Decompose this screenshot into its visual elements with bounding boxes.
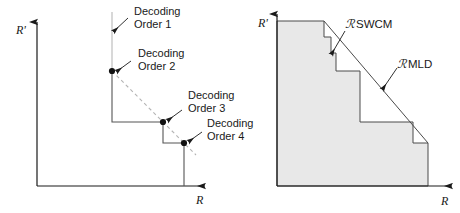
region-label-swcm: ℛ SWCM: [345, 17, 392, 31]
right-leader-mld: [382, 68, 397, 90]
left-y-axis-label: R': [15, 23, 26, 37]
left-x-axis-label: R: [195, 193, 204, 207]
annotation-order2: Decoding Order 2: [138, 47, 184, 72]
left-corner-point-order4: [181, 140, 187, 146]
mld-script-r-icon: ℛ: [397, 57, 408, 71]
figure-container: R' R Decoding Order 1 Decoding: [0, 0, 460, 213]
annotation-order4-line2: Order 4: [207, 130, 244, 142]
annotation-order1: Decoding Order 1: [134, 5, 180, 30]
swcm-script-r-icon: ℛ: [345, 17, 356, 31]
region-label-mld: ℛ MLD: [397, 57, 432, 71]
left-panel-group: R' R Decoding Order 1 Decoding: [15, 5, 253, 207]
annotation-order1-line2: Order 1: [134, 18, 171, 30]
left-leader-order4: [188, 132, 202, 142]
left-corner-point-order2: [109, 68, 115, 74]
left-leader-order2: [116, 61, 131, 72]
annotation-order2-line2: Order 2: [138, 60, 175, 72]
mld-label-text: MLD: [408, 58, 432, 70]
annotation-order3-line1: Decoding: [188, 89, 234, 101]
figure-svg: R' R Decoding Order 1 Decoding: [0, 0, 460, 213]
right-x-axis-label: R: [440, 194, 449, 208]
left-leader-order3: [167, 110, 182, 121]
right-panel-group: R' R ℛ SWCM ℛ MLD: [257, 14, 452, 208]
annotation-order1-line1: Decoding: [134, 5, 180, 17]
left-corner-point-order3: [160, 119, 166, 125]
right-y-axis-label: R': [257, 16, 268, 30]
annotation-order3: Decoding Order 3: [188, 89, 234, 114]
annotation-order4: Decoding Order 4: [207, 117, 253, 142]
right-shaded-region: [277, 21, 428, 186]
left-staircase-boundary: [112, 71, 184, 186]
annotation-order3-line2: Order 3: [188, 102, 225, 114]
swcm-label-text: SWCM: [356, 18, 392, 30]
annotation-order4-line1: Decoding: [207, 117, 253, 129]
left-leader-order1: [113, 18, 128, 32]
annotation-order2-line1: Decoding: [138, 47, 184, 59]
